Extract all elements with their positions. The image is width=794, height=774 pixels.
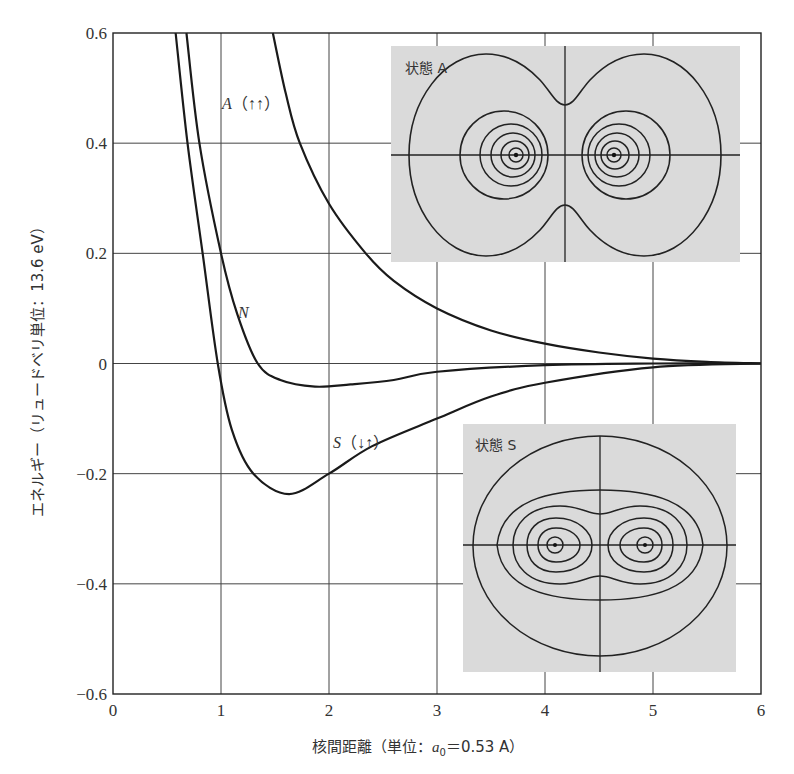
label-n-curve: N [237,304,250,321]
x-tick-label: 1 [217,701,226,720]
label-s-curve: S（↓↑） [333,434,389,451]
inset-state-s: 状態 S [463,424,736,672]
x-tick-label: 3 [433,701,442,720]
energy-chart: 状態 A 状態 S 01234560.60.40.20−0.2−0.4−0.6 … [0,0,794,774]
x-tick-label: 4 [541,701,550,720]
y-tick-label: 0.2 [86,244,107,263]
x-tick-label: 2 [325,701,334,720]
y-tick-label: −0.6 [76,685,107,704]
y-tick-label: −0.2 [76,465,107,484]
x-axis-title: 核間距離（単位：a0＝0.53 A） [312,738,524,758]
x-tick-label: 6 [757,701,766,720]
y-tick-label: 0.4 [86,134,108,153]
inset-a-title: 状態 A [405,60,447,76]
label-a-curve: A（↑↑） [221,95,280,112]
inset-s-title: 状態 S [475,437,516,453]
y-axis-title: エネルギー（リュードベリ単位：13.6 eV） [29,219,47,517]
y-tick-label: −0.4 [76,575,107,594]
y-tick-label: 0 [99,355,108,374]
x-tick-label: 0 [109,701,118,720]
y-tick-label: 0.6 [86,24,107,43]
inset-state-a: 状態 A [391,46,740,262]
x-tick-label: 5 [649,701,658,720]
